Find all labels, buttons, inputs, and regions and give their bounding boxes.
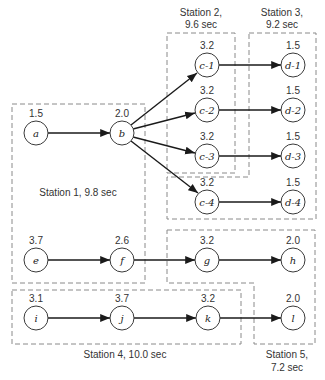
node-d2-label: d-2 xyxy=(285,105,301,116)
node-h: h 2.0 xyxy=(281,235,305,272)
node-e-time: 3.7 xyxy=(29,235,43,246)
node-f-time: 2.6 xyxy=(115,235,129,246)
station-5-label-line2: 7.2 sec xyxy=(271,362,303,373)
node-c4-time: 3.2 xyxy=(200,177,214,188)
node-g: g 3.2 xyxy=(195,235,219,272)
node-d1-label: d-1 xyxy=(285,60,301,71)
node-c2: c-2 3.2 xyxy=(195,85,219,122)
precedence-diagram: Station 1, 9.8 sec Station 2, 9.6 sec St… xyxy=(0,0,325,380)
station-3-label-line2: 9.2 sec xyxy=(266,19,298,30)
node-k-label: k xyxy=(205,313,211,324)
station-3-label-line1: Station 3, xyxy=(261,7,303,18)
node-d2-time: 1.5 xyxy=(286,85,300,96)
node-d3-label: d-3 xyxy=(285,151,301,162)
node-d2: d-2 1.5 xyxy=(281,85,305,122)
node-h-time: 2.0 xyxy=(286,235,300,246)
node-i-label: i xyxy=(34,313,37,324)
node-d1: d-1 1.5 xyxy=(281,40,305,77)
node-d4-label: d-4 xyxy=(285,197,301,208)
node-h-label: h xyxy=(290,255,296,266)
node-j: j 3.7 xyxy=(110,293,134,330)
station-4-label: Station 4, 10.0 sec xyxy=(84,349,167,360)
station-5-label-line1: Station 5, xyxy=(266,349,308,360)
node-c1-label: c-1 xyxy=(199,60,214,71)
node-i: i 3.1 xyxy=(24,293,48,330)
station-2-label-line1: Station 2, xyxy=(180,7,222,18)
node-a: a 1.5 xyxy=(24,108,48,145)
node-l: l 2.0 xyxy=(281,293,305,330)
node-c2-time: 3.2 xyxy=(200,85,214,96)
node-c2-label: c-2 xyxy=(199,105,214,116)
station-1-label: Station 1, 9.8 sec xyxy=(39,187,116,198)
node-a-label: a xyxy=(33,128,39,139)
station-2-label-line2: 9.6 sec xyxy=(185,19,217,30)
node-d3-time: 1.5 xyxy=(286,131,300,142)
node-d1-time: 1.5 xyxy=(286,40,300,51)
node-l-time: 2.0 xyxy=(286,293,300,304)
node-e-label: e xyxy=(33,255,39,266)
node-g-time: 3.2 xyxy=(200,235,214,246)
edge-b-c4 xyxy=(131,141,198,193)
node-e: e 3.7 xyxy=(24,235,48,272)
node-c1-time: 3.2 xyxy=(200,40,214,51)
node-c1: c-1 3.2 xyxy=(195,40,219,77)
nodes: a 1.5 b 2.0 c-1 3.2 c-2 3.2 c-3 3.2 xyxy=(24,40,305,330)
node-k: k 3.2 xyxy=(196,293,220,330)
node-c4: c-4 3.2 xyxy=(195,177,219,214)
node-d4-time: 1.5 xyxy=(286,177,300,188)
node-c3: c-3 3.2 xyxy=(195,131,219,168)
node-d3: d-3 1.5 xyxy=(281,131,305,168)
node-g-label: g xyxy=(204,255,210,266)
node-l-label: l xyxy=(291,313,294,324)
node-b: b 2.0 xyxy=(110,108,134,145)
node-b-time: 2.0 xyxy=(115,108,129,119)
node-a-time: 1.5 xyxy=(29,108,43,119)
node-j-time: 3.7 xyxy=(115,293,129,304)
node-c3-time: 3.2 xyxy=(200,131,214,142)
node-c4-label: c-4 xyxy=(199,197,214,208)
node-k-time: 3.2 xyxy=(201,293,215,304)
node-i-time: 3.1 xyxy=(29,293,43,304)
node-c3-label: c-3 xyxy=(199,151,214,162)
node-f: f 2.6 xyxy=(110,235,134,272)
node-b-label: b xyxy=(119,128,125,139)
node-d4: d-4 1.5 xyxy=(281,177,305,214)
edge-b-c1 xyxy=(131,73,197,125)
